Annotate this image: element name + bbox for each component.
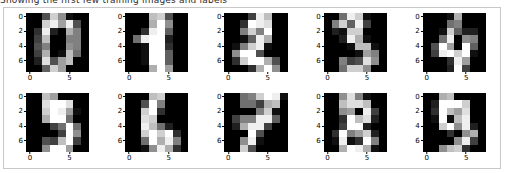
x-tick-label: 5 (166, 155, 170, 162)
image-pixel (447, 28, 455, 35)
y-tick-label: 4 (118, 43, 122, 50)
image-pixel (339, 100, 347, 107)
image-pixel (423, 115, 431, 122)
image-pixel (347, 115, 355, 122)
image-pixel (224, 137, 232, 144)
image-pixel (157, 123, 165, 130)
image-pixel (256, 115, 264, 122)
image-pixel (447, 108, 455, 115)
image-pixel (431, 130, 439, 137)
image-pixel (81, 50, 89, 57)
image-pixel (280, 137, 288, 144)
image-pixel (454, 20, 462, 27)
image-pixel (232, 57, 240, 64)
image-pixel (165, 20, 173, 27)
image-pixel (347, 35, 355, 42)
y-tick-label: 0 (415, 13, 419, 20)
image-pixel (232, 115, 240, 122)
image-pixel (371, 50, 379, 57)
image-pixel (240, 28, 248, 35)
image-pixel (447, 115, 455, 122)
image-pixel (224, 145, 232, 152)
image-pixel (248, 130, 256, 137)
y-tick-label: 6 (415, 137, 419, 144)
image-pixel (264, 20, 272, 27)
image-pixel (133, 65, 141, 72)
image-pixel (431, 145, 439, 152)
image-pixel (439, 108, 447, 115)
image-pixel (256, 28, 264, 35)
image-pixel (240, 93, 248, 100)
image-pixel (423, 108, 431, 115)
image-pixel (423, 123, 431, 130)
image-pixel (26, 20, 34, 27)
image-pixel (133, 93, 141, 100)
image-pixel (173, 108, 181, 115)
image-pixel (454, 57, 462, 64)
image-pixel (447, 65, 455, 72)
image-pixel (431, 137, 439, 144)
image-pixel (280, 43, 288, 50)
image-pixel (324, 13, 332, 20)
image-pixel (339, 130, 347, 137)
image-pixel (232, 65, 240, 72)
image-pixel (149, 13, 157, 20)
image-pixel (181, 35, 189, 42)
image-pixel (248, 28, 256, 35)
digit-subplot-5: 024605 (4, 88, 103, 168)
image-pixel (248, 100, 256, 107)
image-pixel (232, 50, 240, 57)
image-pixel (431, 123, 439, 130)
image-pixel (454, 13, 462, 20)
image-pixel (462, 130, 470, 137)
image-pixel (347, 13, 355, 20)
image-pixel (462, 28, 470, 35)
image-pixel (379, 115, 387, 122)
y-tick-label: 2 (316, 28, 320, 35)
image-pixel (50, 108, 58, 115)
image-pixel (371, 20, 379, 27)
image-pixel (462, 13, 470, 20)
image-pixel (379, 130, 387, 137)
image-pixel (141, 137, 149, 144)
image-pixel (165, 13, 173, 20)
image-pixel (133, 57, 141, 64)
image-pixel (34, 28, 42, 35)
image-pixel (133, 13, 141, 20)
image-pixel (181, 123, 189, 130)
image-pixel (332, 130, 340, 137)
image-pixel (50, 115, 58, 122)
image-pixel (264, 57, 272, 64)
image-pixel (81, 20, 89, 27)
image-pixel (363, 50, 371, 57)
image-pixel (280, 65, 288, 72)
digit-subplot-7: 024605 (202, 88, 301, 168)
image-pixel (42, 108, 50, 115)
image-pixel (149, 57, 157, 64)
image-pixel (462, 65, 470, 72)
subplot-row: 024605024605024605024605024605 (4, 88, 500, 168)
image-pixel (423, 93, 431, 100)
image-pixel (125, 35, 133, 42)
image-pixel (224, 20, 232, 27)
image-pixel (332, 20, 340, 27)
image-pixel (280, 108, 288, 115)
image-pixel (224, 108, 232, 115)
image-pixel (165, 57, 173, 64)
axes-area: 024605 (224, 93, 287, 152)
image-pixel (272, 35, 280, 42)
image-pixel (34, 123, 42, 130)
image-pixel (248, 115, 256, 122)
y-tick-label: 6 (217, 137, 221, 144)
image-pixel (81, 130, 89, 137)
image-pixel (363, 100, 371, 107)
image-pixel (232, 28, 240, 35)
image-pixel (165, 130, 173, 137)
image-pixel (347, 57, 355, 64)
image-pixel (58, 130, 66, 137)
x-tick-label: 0 (28, 155, 32, 162)
image-pixel (34, 65, 42, 72)
image-pixel (355, 57, 363, 64)
image-pixel (462, 57, 470, 64)
image-pixel (141, 123, 149, 130)
